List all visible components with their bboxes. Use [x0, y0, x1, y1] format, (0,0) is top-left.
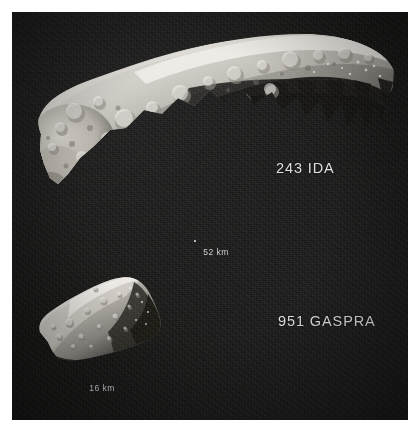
asteroid-comparison-figure: 243 IDA 951 GASPRA 52 km 16 km [0, 0, 420, 431]
gaspra-svg [30, 262, 190, 372]
scale-bar-ida-caption: 52 km [37, 247, 395, 257]
asteroid-gaspra-image [30, 262, 190, 370]
ida-svg [14, 18, 404, 230]
photographic-plate: 243 IDA 951 GASPRA 52 km 16 km [12, 12, 408, 420]
ida-surface [28, 34, 398, 230]
scale-bar-ida-tick [194, 240, 196, 242]
scale-bar-gaspra-caption: 16 km [37, 383, 167, 393]
label-asteroid-gaspra: 951 GASPRA [278, 313, 376, 329]
label-asteroid-ida: 243 IDA [276, 160, 335, 176]
asteroid-ida-image [14, 18, 404, 228]
